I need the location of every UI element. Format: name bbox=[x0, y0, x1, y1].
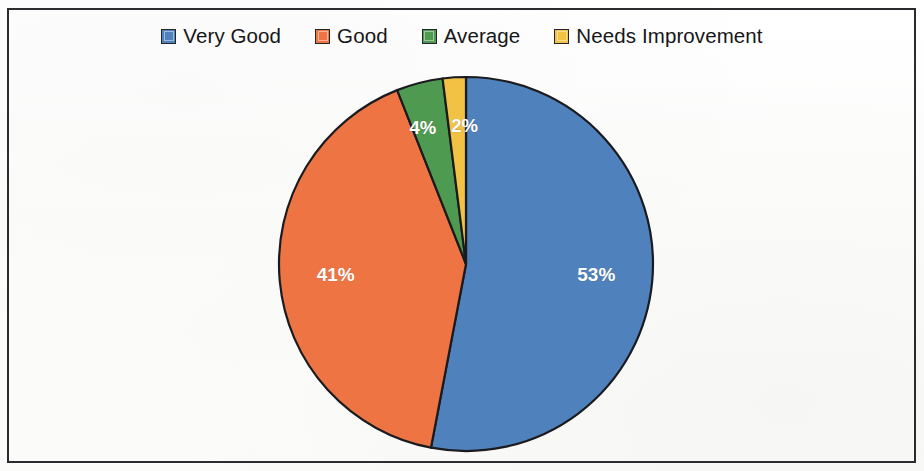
pie-label-very-good: 53% bbox=[577, 264, 615, 285]
legend-label-needs-improvement: Needs Improvement bbox=[576, 26, 762, 47]
legend-swatch-good bbox=[315, 29, 330, 44]
pie-chart: 53%41%4%2% bbox=[275, 72, 657, 456]
pie-label-average: 4% bbox=[409, 117, 436, 138]
pie-label-needs-improvement: 2% bbox=[451, 115, 478, 136]
legend-swatch-very-good bbox=[161, 29, 176, 44]
pie-label-good: 41% bbox=[317, 264, 355, 285]
legend-item-needs-improvement[interactable]: Needs Improvement bbox=[554, 26, 762, 47]
legend-label-average: Average bbox=[444, 26, 521, 47]
legend-label-good: Good bbox=[337, 26, 388, 47]
legend-swatch-average bbox=[422, 29, 437, 44]
pie-chart-svg: 53%41%4%2% bbox=[275, 72, 657, 456]
chart-legend: Very Good Good Average Needs Improvement bbox=[0, 26, 924, 47]
chart-page: Very Good Good Average Needs Improvement… bbox=[0, 0, 924, 471]
legend-item-very-good[interactable]: Very Good bbox=[161, 26, 281, 47]
legend-item-average[interactable]: Average bbox=[422, 26, 521, 47]
legend-label-very-good: Very Good bbox=[183, 26, 281, 47]
legend-swatch-needs-improvement bbox=[554, 29, 569, 44]
legend-item-good[interactable]: Good bbox=[315, 26, 388, 47]
